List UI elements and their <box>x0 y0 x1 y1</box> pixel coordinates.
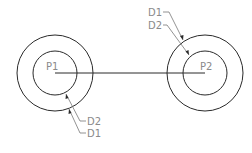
p2-callouts: D1 D2 <box>148 7 189 55</box>
p1-d1-label: D1 <box>87 128 101 139</box>
p1-d2-label: D2 <box>87 116 101 127</box>
p2-d1-label: D1 <box>148 7 162 18</box>
p2-d2-leader <box>163 25 189 55</box>
diagram-canvas: P1 P2 D2 D1 D1 D2 <box>0 0 252 153</box>
p2-label: P2 <box>200 61 212 72</box>
p2-d2-label: D2 <box>148 20 162 31</box>
p1-label: P1 <box>46 61 58 72</box>
p1-callouts: D2 D1 <box>66 94 102 139</box>
p2-d1-leader <box>163 12 183 40</box>
